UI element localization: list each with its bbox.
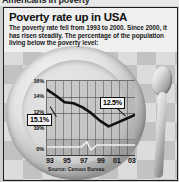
x-axis-labels: 93 95 97 99 01 03 <box>46 156 136 166</box>
callout-end-value: 12.5% <box>100 97 125 109</box>
cropped-top-text-strip: Americans in poverty <box>0 0 179 6</box>
y-tick-16: 16% <box>28 78 44 84</box>
x-tick-99: 99 <box>97 156 105 165</box>
infographic-screenshot: Americans in poverty Poverty rate up in … <box>0 0 179 182</box>
y-tick-14: 14% <box>28 93 44 99</box>
cropped-top-text: Americans in poverty <box>2 0 90 5</box>
x-tick-97: 97 <box>80 156 88 165</box>
source-credit: Source: Census Bureau <box>48 167 104 172</box>
chart-plot-area <box>46 80 135 140</box>
x-tick-01: 01 <box>113 156 121 165</box>
x-tick-93: 93 <box>46 156 54 165</box>
infographic-frame: Poverty rate up in USA The poverty rate … <box>3 7 178 181</box>
callout-start-value: 15.1% <box>27 114 52 126</box>
axis-break-zigzag-icon <box>47 139 135 155</box>
x-tick-95: 95 <box>63 156 71 165</box>
axis-break-band <box>46 139 135 156</box>
headline: Poverty rate up in USA <box>9 11 127 23</box>
poverty-rate-series-line <box>47 81 135 139</box>
y-tick-0: 0% <box>28 146 44 152</box>
deck-text: The poverty rate fell from 1993 to 2000.… <box>9 24 169 47</box>
x-tick-03: 03 <box>128 156 136 165</box>
